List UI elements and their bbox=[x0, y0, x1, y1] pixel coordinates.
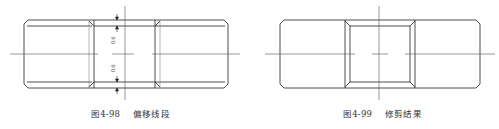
dimension-label-bottom: 0.6 bbox=[110, 65, 116, 73]
chamfer-tl bbox=[89, 21, 94, 26]
figure-title: 偏移线段 bbox=[133, 109, 170, 119]
figure-4-98-caption: 图4-98 偏移线段 bbox=[91, 107, 170, 119]
chamfer-br bbox=[155, 82, 160, 87]
figure-title: 修剪结果 bbox=[385, 109, 422, 119]
figure-number: 图4-99 bbox=[343, 109, 372, 119]
chamfer-bl bbox=[89, 82, 94, 87]
chamfer-bl bbox=[345, 82, 350, 87]
chamfer-br bbox=[410, 82, 415, 87]
chamfer-tr bbox=[410, 21, 415, 26]
chamfer-tl bbox=[345, 21, 350, 26]
drawing-canvas: 0.6 0.6 bbox=[0, 0, 499, 129]
figure-4-99-caption: 图4-99 修剪结果 bbox=[343, 107, 422, 119]
dimension-label-top: 0.6 bbox=[110, 37, 116, 45]
figure-number: 图4-98 bbox=[91, 109, 120, 119]
chamfer-tr bbox=[155, 21, 160, 26]
